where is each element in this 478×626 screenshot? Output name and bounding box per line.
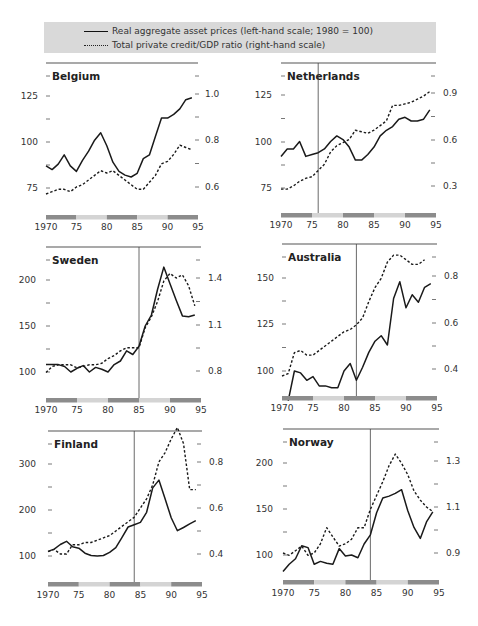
x-axis-label: 95 (431, 403, 442, 413)
asset-price-line (288, 282, 431, 401)
left-axis-label: 300 (19, 459, 36, 469)
x-axis-label: 80 (340, 588, 352, 598)
x-axis-band (374, 213, 405, 218)
x-axis-band (313, 396, 344, 401)
x-axis-label: 85 (135, 590, 146, 600)
right-axis-label: 0.6 (443, 135, 458, 145)
x-axis-label: 95 (195, 405, 206, 415)
x-axis-band (375, 396, 406, 401)
credit-gdp-line (281, 92, 430, 190)
x-axis-band (107, 215, 137, 220)
right-axis-label: 0.4 (444, 364, 459, 374)
left-axis-label: 125 (257, 319, 274, 329)
x-axis-label: 80 (102, 405, 114, 415)
right-axis-label: 1.0 (205, 89, 220, 99)
x-axis-band (171, 582, 202, 587)
x-axis-label: 85 (131, 222, 142, 232)
x-axis-label: 75 (308, 588, 319, 598)
asset-price-line (283, 490, 433, 572)
x-axis-label: 85 (368, 220, 379, 230)
x-axis-band (108, 398, 139, 403)
x-axis-label: 90 (165, 590, 177, 600)
x-axis-label: 90 (164, 405, 176, 415)
x-axis-band (406, 396, 437, 401)
x-axis-label: 80 (104, 590, 116, 600)
chart-panel-sweden: Sweden2001501001.41.10.819707580859095 (19, 247, 223, 415)
x-axis-label: 1970 (270, 220, 293, 230)
left-axis-label: 125 (21, 91, 38, 101)
left-axis-label: 150 (256, 504, 273, 514)
x-axis-band (110, 582, 141, 587)
chart-title: Belgium (52, 70, 100, 82)
x-axis-label: 90 (162, 222, 174, 232)
left-axis-label: 100 (256, 550, 273, 560)
x-axis-label: 1970 (271, 403, 294, 413)
x-axis-band (408, 580, 439, 585)
x-axis-band (377, 580, 408, 585)
x-axis-label: 80 (337, 220, 349, 230)
chart-panel-australia: Australia1501251000.80.60.41970758085909… (257, 244, 459, 413)
left-axis-label: 125 (255, 90, 272, 100)
x-axis-label: 80 (101, 222, 113, 232)
left-axis-label: 100 (255, 137, 272, 147)
asset-price-line (46, 267, 195, 372)
x-axis-band (281, 213, 312, 218)
x-axis-label: 85 (133, 405, 144, 415)
right-axis-label: 1.1 (446, 502, 460, 512)
x-axis-label: 95 (196, 590, 207, 600)
credit-gdp-line (46, 145, 192, 194)
chart-panel-belgium: Belgium125100751.00.80.619707580859095 (21, 63, 220, 232)
right-axis-label: 0.9 (443, 88, 458, 98)
credit-gdp-line (282, 255, 425, 376)
chart-panel-finland: Finland3002001000.80.60.419707580859095 (19, 428, 224, 601)
x-axis-label: 95 (433, 588, 444, 598)
credit-gdp-line (283, 454, 433, 555)
x-axis-band (168, 215, 198, 220)
x-axis-label: 85 (369, 403, 380, 413)
x-axis-label: 90 (399, 220, 411, 230)
chart-title: Finland (54, 438, 98, 450)
asset-price-line (48, 480, 196, 556)
left-axis-label: 150 (257, 273, 274, 283)
x-axis-band (139, 398, 170, 403)
left-axis-label: 100 (257, 366, 274, 376)
x-axis-label: 75 (73, 590, 84, 600)
x-axis-label: 95 (430, 220, 441, 230)
asset-price-line (281, 110, 430, 160)
left-axis-label: 150 (19, 321, 36, 331)
x-axis-label: 1970 (37, 590, 60, 600)
x-axis-band (405, 213, 436, 218)
x-axis-label: 90 (400, 403, 412, 413)
x-axis-label: 1970 (35, 405, 58, 415)
x-axis-label: 80 (338, 403, 350, 413)
x-axis-label: 75 (71, 405, 82, 415)
asset-price-line (46, 98, 192, 177)
x-axis-label: 75 (71, 222, 82, 232)
right-axis-label: 0.8 (208, 366, 223, 376)
chart-panel-netherlands: Netherlands125100750.90.60.3197075808590… (255, 63, 458, 230)
chart-title: Australia (288, 251, 341, 263)
right-axis-label: 0.8 (205, 135, 220, 145)
left-axis-label: 100 (21, 137, 38, 147)
right-axis-label: 0.8 (444, 271, 459, 281)
x-axis-band (170, 398, 201, 403)
x-axis-band (48, 582, 79, 587)
chart-title: Sweden (52, 254, 99, 266)
x-axis-label: 95 (192, 222, 203, 232)
x-axis-band (137, 215, 167, 220)
x-axis-band (283, 580, 314, 585)
right-axis-label: 0.6 (205, 182, 220, 192)
right-axis-label: 0.9 (446, 548, 461, 558)
charts-grid: Belgium125100751.00.80.619707580859095 N… (0, 0, 478, 626)
x-axis-label: 75 (306, 220, 317, 230)
left-axis-label: 75 (261, 183, 272, 193)
x-axis-label: 90 (402, 588, 414, 598)
x-axis-band (312, 213, 343, 218)
chart-title: Norway (289, 436, 334, 448)
right-axis-label: 0.3 (443, 181, 457, 191)
x-axis-band (46, 398, 77, 403)
right-axis-label: 0.4 (209, 549, 224, 559)
x-axis-band (344, 396, 375, 401)
x-axis-band (140, 582, 171, 587)
x-axis-band (76, 215, 106, 220)
